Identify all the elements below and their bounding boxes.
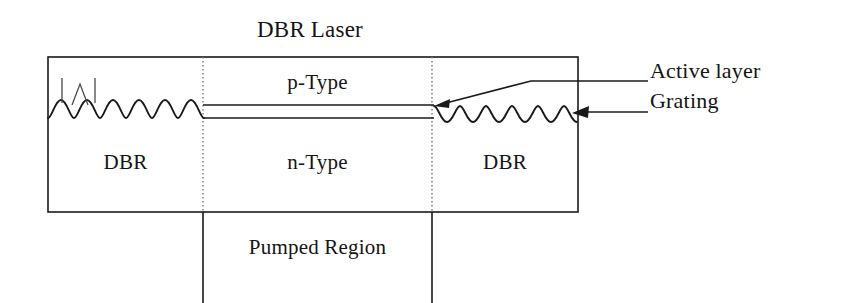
grating-arrowhead [572,106,589,118]
grating-wave-left [48,100,204,118]
region-label-dbr-left: DBR [48,152,203,173]
callout-label-active-layer: Active layer [650,60,761,82]
page-title: DBR Laser [0,18,620,41]
region-label-p-type: p-Type [203,72,432,93]
grating-wave-right [434,106,577,122]
region-label-pumped: Pumped Region [203,237,432,258]
active-layer-leader-line [442,81,648,104]
grating-artifact-spike [72,84,88,105]
region-label-n-type: n-Type [203,152,432,173]
callout-label-grating: Grating [650,90,719,112]
dbr-laser-diagram: DBR Laser p-Type n-Type DBR DBR Pumped R… [0,0,842,303]
region-label-dbr-right: DBR [432,152,578,173]
